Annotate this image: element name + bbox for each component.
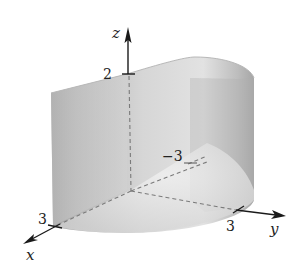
x-tick-label: 3 bbox=[38, 211, 47, 227]
x-axis-label: x bbox=[26, 246, 35, 264]
x-axis bbox=[23, 224, 62, 244]
y-axis-label: y bbox=[269, 220, 279, 238]
x-arrow-icon bbox=[23, 234, 38, 244]
half-cylinder-diagram: z 2 3 x 3 y −3 bbox=[0, 0, 295, 269]
z-axis bbox=[122, 27, 135, 74]
neg-y-tick-label: −3 bbox=[162, 148, 183, 164]
z-axis-label: z bbox=[111, 24, 120, 42]
y-axis bbox=[233, 206, 286, 219]
y-tick-label: 3 bbox=[226, 218, 235, 234]
z-tick-label: 2 bbox=[103, 66, 112, 82]
